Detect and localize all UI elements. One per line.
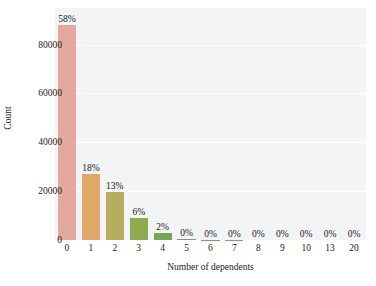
- bar-slot: 0%: [342, 8, 366, 240]
- bar-value-label: 13%: [103, 181, 127, 191]
- x-tick-label: 0: [55, 243, 79, 253]
- bar-slot: 0%: [318, 8, 342, 240]
- bar[interactable]: [58, 25, 76, 240]
- bar-slot: 2%: [151, 8, 175, 240]
- bar-slot: 0%: [175, 8, 199, 240]
- bar-slot: 0%: [294, 8, 318, 240]
- y-tick-label: 20000: [16, 186, 62, 196]
- x-tick-label: 9: [270, 243, 294, 253]
- x-tick-label: 4: [151, 243, 175, 253]
- bar-chart-figure: Count 58%18%13%6%2%0%0%0%0%0%0%0%0% 0200…: [0, 0, 376, 286]
- bar-slot: 0%: [199, 8, 223, 240]
- x-tick-label: 20: [342, 243, 366, 253]
- bar-slot: 6%: [127, 8, 151, 240]
- y-tick-label: 60000: [16, 88, 62, 98]
- bar-slot: 0%: [246, 8, 270, 240]
- bar-value-label: 0%: [199, 229, 223, 239]
- x-tick-label: 5: [175, 243, 199, 253]
- bar-value-label: 58%: [55, 14, 79, 24]
- y-axis-label: Count: [3, 93, 13, 143]
- bar-value-label: 0%: [318, 229, 342, 239]
- x-tick-label: 1: [79, 243, 103, 253]
- x-tick-label: 10: [294, 243, 318, 253]
- x-tick-label: 13: [318, 243, 342, 253]
- x-tick-label: 8: [246, 243, 270, 253]
- bar-value-label: 18%: [79, 163, 103, 173]
- bar-value-label: 0%: [222, 229, 246, 239]
- bar-series: 58%18%13%6%2%0%0%0%0%0%0%0%0%: [55, 8, 366, 240]
- bar-slot: 0%: [222, 8, 246, 240]
- bar-value-label: 0%: [270, 229, 294, 239]
- bar-slot: 13%: [103, 8, 127, 240]
- bar-value-label: 0%: [175, 228, 199, 238]
- x-tick-label: 3: [127, 243, 151, 253]
- plot-area: 58%18%13%6%2%0%0%0%0%0%0%0%0%: [55, 8, 366, 240]
- x-tick-label: 6: [199, 243, 223, 253]
- y-tick-label: 80000: [16, 40, 62, 50]
- gridline: [55, 240, 366, 241]
- bar-value-label: 0%: [246, 229, 270, 239]
- bar[interactable]: [106, 192, 124, 240]
- x-tick-label: 2: [103, 243, 127, 253]
- bar[interactable]: [177, 239, 195, 240]
- bar[interactable]: [154, 233, 172, 240]
- bar-slot: 18%: [79, 8, 103, 240]
- bar-value-label: 2%: [151, 222, 175, 232]
- bar-value-label: 0%: [342, 229, 366, 239]
- x-tick-label: 7: [222, 243, 246, 253]
- bar[interactable]: [82, 174, 100, 240]
- y-tick-label: 40000: [16, 137, 62, 147]
- bar[interactable]: [130, 218, 148, 240]
- x-axis-label: Number of dependents: [55, 262, 366, 272]
- bar-slot: 0%: [270, 8, 294, 240]
- bar-value-label: 0%: [294, 229, 318, 239]
- bar-value-label: 6%: [127, 207, 151, 217]
